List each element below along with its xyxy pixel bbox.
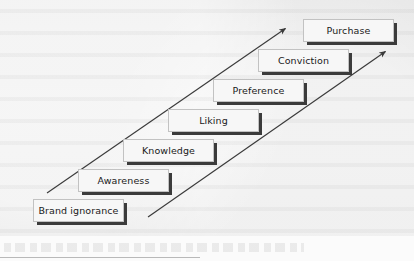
step-box-3[interactable]: Knowledge bbox=[123, 139, 217, 165]
step-box-7-face: Purchase bbox=[303, 19, 394, 42]
step-label-5: Preference bbox=[233, 85, 285, 96]
step-box-1[interactable]: Brand ignorance bbox=[33, 199, 127, 225]
step-label-3: Knowledge bbox=[142, 145, 195, 156]
step-box-5-face: Preference bbox=[213, 79, 304, 102]
step-label-1: Brand ignorance bbox=[38, 205, 118, 216]
step-box-2-face: Awareness bbox=[78, 169, 169, 192]
step-label-7: Purchase bbox=[327, 25, 371, 36]
step-box-7[interactable]: Purchase bbox=[303, 19, 397, 45]
step-box-4[interactable]: Liking bbox=[168, 109, 262, 135]
step-box-6[interactable]: Conviction bbox=[258, 49, 352, 75]
step-label-6: Conviction bbox=[278, 55, 329, 66]
step-label-2: Awareness bbox=[98, 175, 150, 186]
step-box-6-face: Conviction bbox=[258, 49, 349, 72]
diagram-canvas: Brand ignorance Awareness Knowledge Liki… bbox=[0, 0, 414, 261]
step-label-4: Liking bbox=[199, 115, 228, 126]
step-box-3-face: Knowledge bbox=[123, 139, 214, 162]
step-box-4-face: Liking bbox=[168, 109, 259, 132]
step-box-2[interactable]: Awareness bbox=[78, 169, 172, 195]
step-box-5[interactable]: Preference bbox=[213, 79, 307, 105]
step-box-1-face: Brand ignorance bbox=[33, 199, 124, 222]
